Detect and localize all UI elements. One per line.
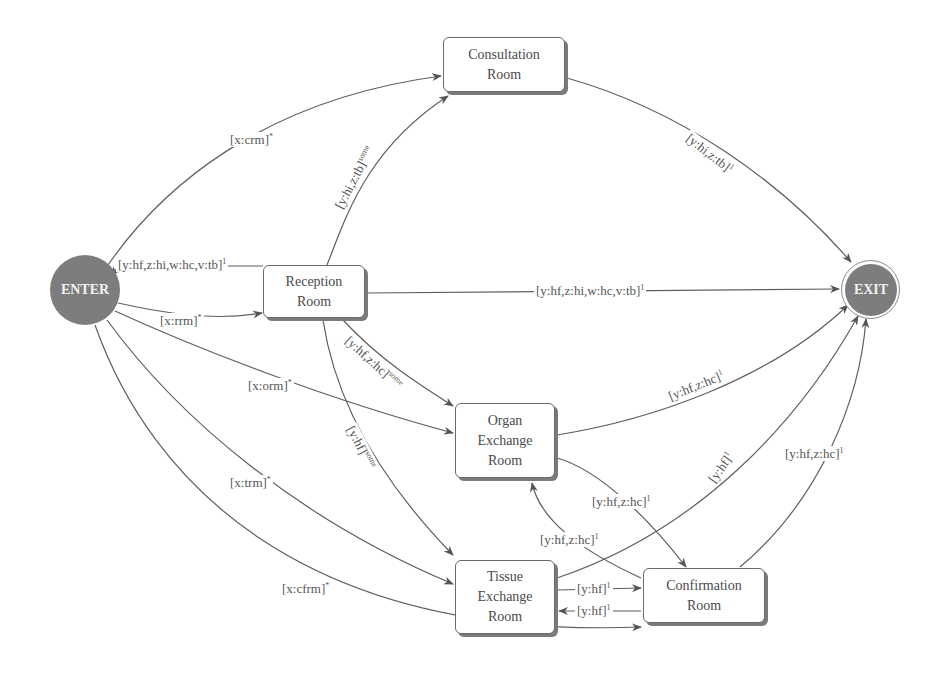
edge-label-enter-confirmation: [x:cfrm]* bbox=[280, 581, 331, 596]
consultation-room-node: Consultation Room bbox=[443, 37, 565, 92]
tissue-room-line2: Exchange bbox=[477, 587, 532, 607]
edge-label-enter-reception: [x:rrm]* bbox=[158, 313, 204, 328]
edge-label-confirmation-exit: [y:hf,z:hc]1 bbox=[783, 446, 846, 461]
edge-consultation-exit bbox=[567, 78, 851, 262]
tissue-room-line3: Room bbox=[477, 607, 532, 627]
tissue-exchange-room-node: Tissue Exchange Room bbox=[455, 560, 555, 634]
reception-room-line2: Room bbox=[286, 292, 343, 312]
edge-confirmation-exit bbox=[740, 319, 866, 567]
edge-label-confirmation-organ: [y:hf,z:hc]1 bbox=[538, 532, 601, 547]
edge-label-enter-consultation: [x:crm]* bbox=[228, 132, 275, 147]
exit-node: EXIT bbox=[845, 264, 897, 316]
confirmation-room-line1: Confirmation bbox=[666, 576, 741, 596]
consultation-room-line2: Room bbox=[468, 65, 540, 85]
enter-label: ENTER bbox=[61, 282, 109, 298]
edge-enter-consultation bbox=[108, 76, 441, 265]
tissue-room-line1: Tissue bbox=[477, 567, 532, 587]
edge-label-enter-tissue: [x:trm]* bbox=[228, 475, 273, 490]
edge-label-tissue-confirmation: [y:hf]1 bbox=[575, 581, 613, 596]
reception-room-node: Reception Room bbox=[263, 265, 365, 318]
organ-exchange-room-node: Organ Exchange Room bbox=[455, 403, 555, 478]
organ-room-line1: Organ bbox=[477, 411, 532, 431]
confirmation-room-line2: Room bbox=[666, 596, 741, 616]
enter-node: ENTER bbox=[50, 255, 120, 325]
edge-enter-confirmation bbox=[95, 325, 641, 628]
confirmation-room-node: Confirmation Room bbox=[643, 568, 765, 623]
reception-room-line1: Reception bbox=[286, 272, 343, 292]
edge-label-reception-exit: [y:hf,z:hi,w:hc,v:tb]1 bbox=[534, 283, 646, 298]
organ-room-line2: Exchange bbox=[477, 431, 532, 451]
edge-enter-tissue bbox=[107, 320, 453, 584]
edge-reception-organ bbox=[343, 320, 453, 406]
consultation-room-line1: Consultation bbox=[468, 45, 540, 65]
edge-label-reception-enter: [y:hf,z:hi,w:hc,v:tb]1 bbox=[116, 257, 228, 272]
exit-label: EXIT bbox=[854, 282, 888, 298]
edge-label-confirmation-tissue: [y:hf]1 bbox=[575, 603, 613, 618]
edge-reception-tissue bbox=[323, 320, 453, 555]
edge-organ-exit bbox=[557, 305, 848, 435]
edge-label-enter-organ: [x:orm]* bbox=[246, 378, 294, 393]
organ-room-line3: Room bbox=[477, 451, 532, 471]
edge-label-organ-confirmation: [y:hf,z:hc]1 bbox=[590, 494, 653, 509]
state-diagram: ENTER EXIT Consultation Room Reception R… bbox=[0, 0, 946, 693]
